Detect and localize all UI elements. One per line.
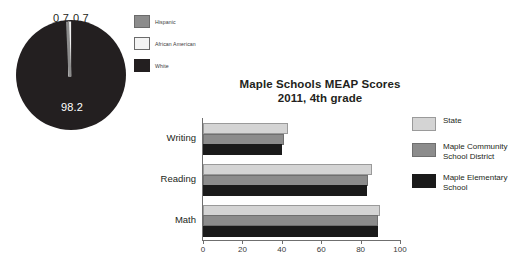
category-label-writing: Writing: [167, 132, 196, 143]
bar-reading-elem: [203, 185, 367, 196]
category-label-math: Math: [175, 214, 196, 225]
pie-legend-swatch-white: [134, 59, 150, 72]
pie-graphic: [16, 20, 126, 130]
x-axis-tick-label: 40: [277, 245, 286, 254]
bar-legend-label-state: State: [443, 116, 462, 126]
bar-legend-item-elementary[interactable]: Maple Elementary School: [412, 173, 522, 193]
pie-legend-item-african-american[interactable]: African American: [134, 35, 212, 52]
bar-legend-swatch-district: [412, 143, 436, 157]
bar-legend-item-state[interactable]: State: [412, 116, 522, 131]
bar-group-math: Math: [203, 205, 400, 235]
x-axis-tick: [361, 240, 362, 244]
x-axis-tick: [321, 240, 322, 244]
x-axis-tick-label: 60: [317, 245, 326, 254]
pie-legend-item-hispanic[interactable]: Hispanic: [134, 13, 212, 30]
pie-label-white: 98.2: [42, 101, 102, 113]
x-axis-tick: [400, 240, 401, 244]
bar-group-writing: Writing: [203, 123, 400, 153]
bar-legend-label-district: Maple Community School District: [443, 142, 517, 162]
x-axis-tick: [282, 240, 283, 244]
bar-chart-panel: Maple Schools MEAP Scores 2011, 4th grad…: [150, 70, 522, 270]
bar-group-reading: Reading: [203, 164, 400, 194]
bar-reading-district: [203, 175, 368, 186]
bar-writing-state: [203, 123, 288, 134]
bar-math-state: [203, 205, 380, 216]
pie-legend-swatch-hispanic: [134, 15, 150, 28]
bar-writing-elem: [203, 144, 282, 155]
x-axis-line: [202, 240, 401, 241]
x-axis-tick-label: 20: [238, 245, 247, 254]
pie-legend-label-white: White: [155, 63, 169, 69]
x-axis-tick: [242, 240, 243, 244]
x-axis-tick-label: 80: [356, 245, 365, 254]
bar-legend-label-elementary: Maple Elementary School: [443, 173, 517, 193]
x-axis-tick-label: 0: [201, 245, 205, 254]
pie-legend-swatch-african-american: [134, 37, 150, 50]
bar-legend-swatch-state: [412, 117, 436, 131]
chart-subtitle: 2011, 4th grade: [204, 92, 436, 104]
pie-legend-label-hispanic: Hispanic: [155, 19, 176, 25]
bar-legend-swatch-elementary: [412, 174, 436, 188]
bar-math-district: [203, 215, 378, 226]
category-label-reading: Reading: [161, 173, 196, 184]
bar-legend: State Maple Community School District Ma…: [412, 116, 522, 204]
bar-reading-state: [203, 164, 372, 175]
pie-legend-label-african-american: African American: [155, 41, 196, 47]
x-axis-tick: [203, 240, 204, 244]
bar-legend-item-district[interactable]: Maple Community School District: [412, 142, 522, 162]
bar-writing-district: [203, 134, 284, 145]
x-axis-tick-label: 100: [393, 245, 406, 254]
figure-canvas: 0.70.7 98.2 Hispanic African American Wh…: [0, 0, 522, 270]
bar-math-elem: [203, 226, 378, 237]
plot-area: 020406080100WritingReadingMath: [203, 118, 400, 240]
chart-title: Maple Schools MEAP Scores: [204, 78, 436, 90]
